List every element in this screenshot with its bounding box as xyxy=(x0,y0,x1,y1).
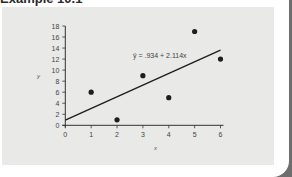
y-tick-label: 18 xyxy=(52,23,60,30)
regression-line xyxy=(65,50,220,120)
x-tick-label: 5 xyxy=(193,131,197,138)
x-tick-label: 0 xyxy=(63,131,67,138)
x-tick-label: 2 xyxy=(115,131,119,138)
y-tick-label: 10 xyxy=(52,67,60,74)
data-points xyxy=(89,29,224,122)
regression-equation: ŷ = .934 + 2.114x xyxy=(133,52,187,60)
x-tick-label: 3 xyxy=(141,131,145,138)
y-tick-label: 8 xyxy=(55,78,59,85)
y-tick-label: 6 xyxy=(55,89,59,96)
x-axis-label: x xyxy=(153,145,158,151)
data-point xyxy=(192,29,197,34)
data-point xyxy=(140,73,145,78)
y-axis-ticks: 024681012141618 xyxy=(52,23,66,129)
y-tick-label: 14 xyxy=(52,45,60,52)
x-tick-label: 1 xyxy=(89,131,93,138)
y-tick-label: 2 xyxy=(55,111,59,118)
data-point xyxy=(166,95,171,100)
x-tick-label: 4 xyxy=(167,131,171,138)
data-point xyxy=(89,90,94,95)
y-axis-label: y xyxy=(36,73,41,79)
x-tick-label: 6 xyxy=(219,131,223,138)
data-point xyxy=(114,117,119,122)
data-point xyxy=(218,57,223,62)
x-axis-ticks: 0123456 xyxy=(63,125,222,138)
y-tick-label: 16 xyxy=(52,34,60,41)
y-tick-label: 12 xyxy=(52,56,60,63)
y-tick-label: 4 xyxy=(55,100,59,107)
y-tick-label: 0 xyxy=(55,122,59,129)
scatter-chart: 024681012141618 0123456 y x ŷ = .934 + 2… xyxy=(0,0,292,177)
